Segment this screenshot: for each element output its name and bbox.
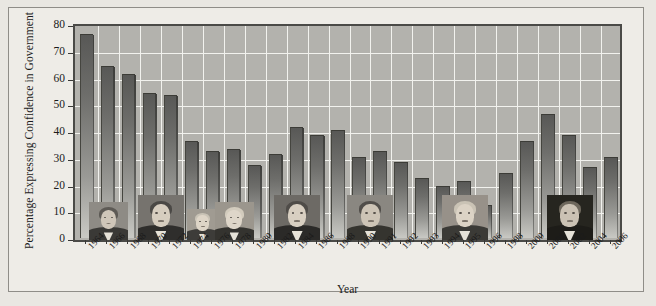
portrait-eye-left: [564, 212, 567, 214]
bar-slot: [496, 28, 517, 238]
portrait-eye-right: [300, 212, 303, 214]
x-axis-tick-labels: 1964196619681970197219741976197819801982…: [73, 244, 622, 284]
y-axis-tick-label: 50: [39, 98, 65, 110]
bar-side-face: [260, 166, 261, 238]
portrait-face: [196, 215, 209, 231]
bar-side-face: [323, 136, 324, 238]
x-axis-tick-mark: [421, 240, 422, 244]
portrait-eye-left: [104, 217, 106, 219]
y-axis-tick-label: 60: [39, 72, 65, 84]
y-axis-tick-mark: [68, 240, 73, 241]
portrait-eye-right: [237, 217, 239, 219]
bar-slot: [412, 28, 433, 238]
bar[interactable]: [331, 130, 345, 238]
x-axis-tick-mark: [169, 240, 170, 244]
bar-side-face: [512, 174, 513, 238]
portrait-face: [560, 204, 578, 226]
portrait-mouth: [158, 220, 164, 221]
x-axis-tick-mark: [400, 240, 401, 244]
portrait-face: [288, 204, 306, 226]
y-axis-title: Percentage Expressing Confidence in Gove…: [23, 19, 35, 249]
bar[interactable]: [520, 141, 534, 238]
bar-side-face: [533, 142, 534, 238]
portrait-eye-left: [365, 212, 368, 214]
bar-side-face: [491, 206, 492, 238]
x-axis-tick-mark: [211, 240, 212, 244]
bar-slot: [601, 28, 622, 238]
x-axis-tick-mark: [274, 240, 275, 244]
portrait-face: [152, 204, 170, 226]
y-axis-tick-label: 10: [39, 205, 65, 217]
portrait-face: [101, 210, 117, 229]
y-axis-tick-mark: [68, 213, 73, 214]
x-axis-tick-mark: [148, 240, 149, 244]
plot-wrapper: 01020304050607080: [73, 24, 622, 242]
y-axis-tick-mark: [68, 160, 73, 161]
x-axis-tick-mark: [526, 240, 527, 244]
bar-side-face: [344, 131, 345, 238]
x-axis-tick-mark: [484, 240, 485, 244]
y-axis-tick-label: 70: [39, 45, 65, 57]
x-axis-tick-mark: [337, 240, 338, 244]
y-axis-tick-mark: [68, 133, 73, 134]
bar-slot: [391, 28, 412, 238]
portrait-face: [361, 204, 379, 226]
x-axis-tick-mark: [505, 240, 506, 244]
x-axis-tick-mark: [358, 240, 359, 244]
bar[interactable]: [415, 178, 429, 238]
y-axis-tick-label: 20: [39, 179, 65, 191]
x-axis-tick-mark: [127, 240, 128, 244]
y-axis-tick-label: 80: [39, 18, 65, 30]
bar[interactable]: [394, 162, 408, 238]
portrait-face: [456, 204, 474, 226]
bar[interactable]: [604, 157, 618, 238]
portrait-mouth: [567, 220, 573, 221]
x-axis-tick-mark: [190, 240, 191, 244]
x-axis-tick-mark: [253, 240, 254, 244]
x-axis-tick-mark: [589, 240, 590, 244]
bar-side-face: [617, 158, 618, 238]
bar[interactable]: [499, 173, 513, 238]
portrait-eye-right: [111, 217, 113, 219]
bar-slot: [329, 28, 350, 238]
x-axis-tick-mark: [232, 240, 233, 244]
bar-slot: [517, 28, 538, 238]
bar-slot: [182, 28, 203, 238]
x-axis-tick-mark: [442, 240, 443, 244]
portrait-face: [226, 210, 242, 229]
y-axis-tick-mark: [68, 106, 73, 107]
portrait-eye-right: [205, 221, 207, 222]
president-portrait-george-w-bush: [547, 195, 593, 240]
y-axis-tick-mark: [68, 80, 73, 81]
x-axis-tick-mark: [379, 240, 380, 244]
x-axis-tick-mark: [547, 240, 548, 244]
bar-side-face: [428, 179, 429, 238]
x-axis-tick-mark: [85, 240, 86, 244]
x-axis-tick-mark: [463, 240, 464, 244]
x-axis-tick-mark: [568, 240, 569, 244]
bar-side-face: [407, 163, 408, 238]
portrait-mouth: [368, 220, 374, 221]
bar-side-face: [596, 168, 597, 238]
y-axis-tick-mark: [68, 187, 73, 188]
x-axis-tick-mark: [106, 240, 107, 244]
president-portrait-ronald-reagan: [274, 195, 320, 240]
y-axis-tick-label: 40: [39, 125, 65, 137]
x-axis-title: Year: [73, 283, 622, 295]
y-axis-tick-label: 0: [39, 232, 65, 244]
y-axis-tick-mark: [68, 53, 73, 54]
bar-side-face: [134, 75, 135, 238]
y-axis-tick-label: 30: [39, 152, 65, 164]
y-axis-tick-mark: [68, 26, 73, 27]
x-axis-tick-mark: [295, 240, 296, 244]
x-axis-tick-mark: [316, 240, 317, 244]
president-portrait-bill-clinton: [442, 195, 488, 240]
portrait-eye-left: [230, 217, 232, 219]
x-axis-tick-mark: [610, 240, 611, 244]
chart-figure: Percentage Expressing Confidence in Gove…: [0, 0, 656, 306]
plot-area: [73, 24, 622, 242]
portrait-eye-left: [199, 221, 201, 222]
